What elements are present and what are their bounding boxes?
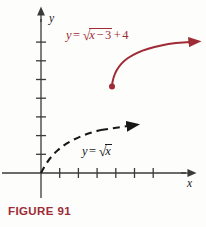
curve-sqrt-x-minus-3-plus-4 (109, 42, 190, 90)
radicand: x (105, 144, 112, 158)
equation-label-shifted: y=√x−3+4 (66, 28, 129, 43)
radicand-constant: 3 (105, 28, 111, 42)
equation-lhs: y (66, 28, 72, 42)
equation-equals: = (72, 28, 82, 42)
curve-shifted-endpoint-dot (109, 84, 115, 90)
curve-shifted-arrow (176, 42, 190, 43)
y-axis-label: y (48, 12, 55, 25)
curve-shifted-path (112, 43, 176, 86)
outer-operator: + (112, 28, 122, 42)
radical-expression: √x (98, 144, 112, 159)
radicand: x−3 (89, 28, 112, 42)
figure-container: y x y=√x−3+4 y=√x FIGURE 91 (0, 0, 206, 227)
radical-expression: √x−3 (82, 28, 113, 43)
equation-lhs: y (82, 144, 88, 158)
equation-equals: = (88, 144, 98, 158)
x-axis-label: x (186, 177, 193, 189)
outer-constant: 4 (122, 28, 128, 42)
curve-sqrt-x-arrow (101, 126, 128, 130)
radicand-operator: − (95, 28, 105, 42)
figure-caption: FIGURE 91 (8, 205, 71, 217)
equation-label-base: y=√x (82, 144, 112, 159)
